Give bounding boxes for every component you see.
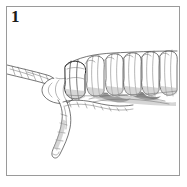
step-number-label: 1 [11,8,20,25]
whipping-coil [160,50,178,97]
whipping-coil [142,51,160,97]
figure-panel: 1 [0,0,187,187]
rope-whipping-illustration [7,7,179,175]
rope-working-end [52,99,71,158]
whipping-coil [87,55,105,98]
whipping-first-turn [65,60,86,100]
whipping-coil [106,53,124,97]
whipping-coil [124,52,142,97]
